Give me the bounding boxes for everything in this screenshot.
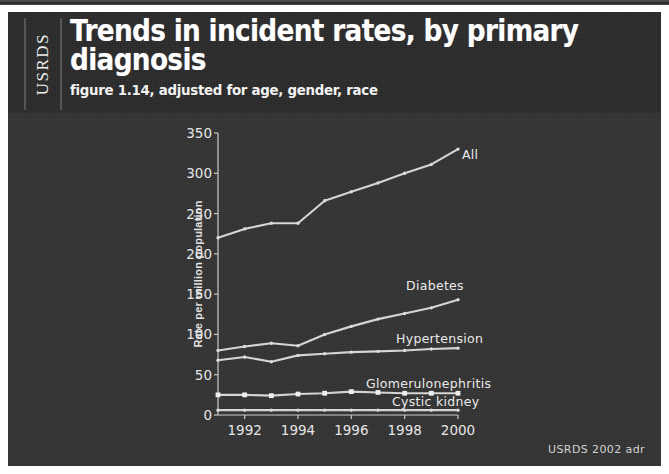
marker-hypertension-2000 [456,346,459,349]
marker-hypertension-1991 [216,359,219,362]
marker-all-1997 [376,181,379,184]
source-credit: USRDS 2002 adr [548,443,645,456]
marker-diabetes-1999 [430,306,433,309]
marker-glomerulonephritis-1994 [296,392,301,397]
marker-cystic-kidney-1993 [270,408,273,411]
marker-glomerulonephritis-1993 [269,393,274,398]
figure-page: USRDS Trends in incident rates, by prima… [0,0,669,474]
series-line-all [218,149,458,238]
series-label-glomerulonephritis: Glomerulonephritis [366,376,491,391]
x-tick-label-1998: 1998 [387,422,421,438]
page-top-rule [0,0,669,5]
marker-glomerulonephritis-1995 [322,391,327,396]
marker-hypertension-1992 [243,355,246,358]
series-line-hypertension [218,348,458,362]
marker-diabetes-1991 [216,349,219,352]
marker-hypertension-1996 [350,350,353,353]
y-tick-label-150: 150 [186,286,212,302]
marker-diabetes-1993 [270,342,273,345]
marker-diabetes-1992 [243,345,246,348]
marker-diabetes-1996 [350,325,353,328]
series-label-cystic-kidney: Cystic kidney [392,394,479,409]
marker-all-1999 [430,163,433,166]
marker-cystic-kidney-1995 [323,408,326,411]
x-tick-label-1994: 1994 [281,422,315,438]
y-tick-label-0: 0 [203,407,212,423]
y-tick-label-300: 300 [186,165,212,181]
marker-all-1992 [243,227,246,230]
marker-all-1991 [216,236,219,239]
marker-diabetes-1997 [376,317,379,320]
marker-hypertension-1997 [376,350,379,353]
y-tick-label-250: 250 [186,206,212,222]
line-chart-svg [218,133,458,415]
marker-cystic-kidney-1991 [216,408,219,411]
marker-cystic-kidney-1997 [376,408,379,411]
marker-all-1998 [403,172,406,175]
y-tick-label-350: 350 [186,125,212,141]
marker-all-1996 [350,190,353,193]
y-tick-label-50: 50 [195,367,212,383]
marker-diabetes-1998 [403,312,406,315]
marker-hypertension-1998 [403,349,406,352]
usrds-org-label: USRDS [33,33,53,95]
marker-diabetes-1994 [296,344,299,347]
marker-diabetes-2000 [456,298,459,301]
series-label-all: All [462,147,478,162]
marker-all-2000 [456,147,459,150]
marker-cystic-kidney-1996 [350,408,353,411]
x-tick-label-1992: 1992 [227,422,261,438]
series-label-hypertension: Hypertension [396,331,483,346]
marker-all-1994 [296,222,299,225]
marker-glomerulonephritis-1996 [349,389,354,394]
marker-glomerulonephritis-1992 [242,392,247,397]
x-tick-label-1996: 1996 [334,422,368,438]
marker-diabetes-1995 [323,333,326,336]
figure-header: USRDS Trends in incident rates, by prima… [8,12,661,113]
marker-cystic-kidney-1992 [243,408,246,411]
marker-all-1995 [323,199,326,202]
marker-all-1993 [270,222,273,225]
y-tick-label-100: 100 [186,326,212,342]
page-title: Trends in incident rates, by primary dia… [70,16,583,75]
marker-hypertension-1993 [270,360,273,363]
marker-cystic-kidney-1994 [296,408,299,411]
marker-hypertension-1994 [296,354,299,357]
series-label-diabetes: Diabetes [406,278,464,293]
usrds-org-tab: USRDS [24,18,62,110]
marker-hypertension-1995 [323,352,326,355]
header-text-block: Trends in incident rates, by primary dia… [70,16,653,98]
x-tick-label-2000: 2000 [441,422,475,438]
chart-panel: Rate per million population 050100150200… [8,113,661,466]
y-tick-label-200: 200 [186,246,212,262]
marker-hypertension-1999 [430,347,433,350]
plot-area: Rate per million population 050100150200… [218,133,458,415]
page-subtitle: figure 1.14, adjusted for age, gender, r… [70,82,606,98]
marker-glomerulonephritis-1991 [216,392,221,397]
